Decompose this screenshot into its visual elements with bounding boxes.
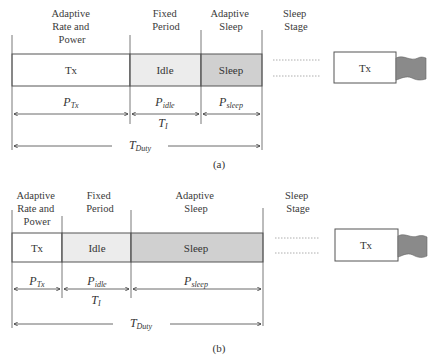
header-sleep-stage: Sleep Stage xyxy=(285,190,311,214)
caption-b: (b) xyxy=(213,342,226,355)
diagram-a: Adaptive Rate and Power Fixed Period Ada… xyxy=(12,8,426,171)
interval-label: TI xyxy=(91,293,101,308)
power-idle-label: Pidle xyxy=(86,274,107,289)
power-tx-label: PTx xyxy=(62,95,79,110)
segment-sleep-label: Sleep xyxy=(184,242,209,254)
segment-idle-label: Idle xyxy=(156,64,173,76)
next-tx-label: Tx xyxy=(360,239,373,251)
power-idle-label: Pidle xyxy=(154,95,175,110)
diagram-b: Adaptive Rate and Power Fixed Period Ada… xyxy=(12,190,427,355)
header-idle: Fixed Period xyxy=(86,190,114,214)
segment-sleep-label: Sleep xyxy=(219,64,244,76)
interval-label: TI xyxy=(158,116,168,131)
duty-cycle-diagram: Adaptive Rate and Power Fixed Period Ada… xyxy=(0,0,436,361)
header-tx: Adaptive Rate and Power xyxy=(16,190,57,227)
duty-label: TDuty xyxy=(130,316,153,331)
header-sleep: Adaptive Sleep xyxy=(175,190,216,214)
header-sleep-stage: Sleep Stage xyxy=(283,8,309,32)
duty-label: TDuty xyxy=(129,138,152,153)
wave-flag-icon xyxy=(398,235,427,258)
header-idle: Fixed Period xyxy=(152,8,180,32)
power-sleep-label: Psleep xyxy=(218,95,243,110)
segment-idle-label: Idle xyxy=(88,242,105,254)
caption-a: (a) xyxy=(213,158,226,171)
wave-flag-icon xyxy=(396,57,426,80)
header-tx: Adaptive Rate and Power xyxy=(51,8,92,45)
power-sleep-label: Psleep xyxy=(183,274,208,289)
segment-tx-label: Tx xyxy=(31,242,44,254)
next-tx-label: Tx xyxy=(359,62,372,74)
power-tx-label: PTx xyxy=(28,274,45,289)
segment-tx-label: Tx xyxy=(65,64,78,76)
header-sleep: Adaptive Sleep xyxy=(210,8,251,32)
